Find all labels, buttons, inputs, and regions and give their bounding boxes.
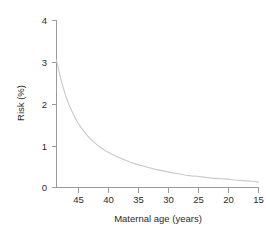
x-tick-label-25: 25 xyxy=(193,194,204,205)
x-axis-title: Maternal age (years) xyxy=(114,213,202,224)
x-tick-label-45: 45 xyxy=(73,194,84,205)
y-axis-ticks xyxy=(52,21,57,188)
x-tick-label-35: 35 xyxy=(133,194,144,205)
risk-curve-line xyxy=(57,60,259,182)
chart-canvas: 4 3 2 1 0 45 40 35 30 25 20 15 Materna xyxy=(0,0,266,235)
x-tick-label-30: 30 xyxy=(163,194,174,205)
x-tick-label-20: 20 xyxy=(223,194,234,205)
y-tick-label-0: 0 xyxy=(42,182,47,193)
x-tick-label-40: 40 xyxy=(103,194,114,205)
y-tick-label-2: 2 xyxy=(42,99,47,110)
y-tick-label-3: 3 xyxy=(42,57,47,68)
y-tick-label-4: 4 xyxy=(42,15,47,26)
x-tick-label-15: 15 xyxy=(253,194,264,205)
x-axis-tick-labels: 45 40 35 30 25 20 15 xyxy=(73,194,264,205)
y-axis-tick-labels: 4 3 2 1 0 xyxy=(42,15,47,193)
risk-vs-maternal-age-chart: 4 3 2 1 0 45 40 35 30 25 20 15 Materna xyxy=(0,0,266,235)
y-tick-label-1: 1 xyxy=(42,141,47,152)
x-axis-ticks xyxy=(79,188,259,193)
y-axis-title: Risk (%) xyxy=(15,85,26,121)
